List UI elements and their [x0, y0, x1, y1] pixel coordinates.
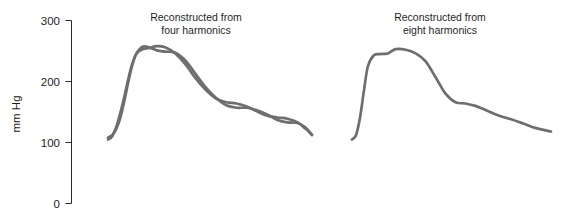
panel-1-title: Reconstructed from four harmonics: [150, 11, 242, 36]
y-tick-label-0: 0: [54, 198, 60, 210]
y-tick-label-100: 100: [41, 137, 60, 149]
panel-2-title-line1: Reconstructed from: [394, 11, 486, 23]
y-axis-title: mm Hg: [10, 95, 22, 132]
waveform-traces: [108, 46, 551, 139]
panel-2-title: Reconstructed from eight harmonics: [394, 11, 486, 36]
figure-container: 300 200 100 0 mm Hg Reconstructed from f…: [0, 0, 562, 224]
y-tick-label-200: 200: [41, 76, 60, 88]
y-axis: 300 200 100 0 mm Hg: [10, 15, 72, 210]
y-tick-label-300: 300: [41, 15, 60, 27]
panel-1-title-line1: Reconstructed from: [150, 11, 242, 23]
chart-canvas: 300 200 100 0 mm Hg Reconstructed from f…: [0, 0, 562, 224]
waveform-trace-p1-s2: [108, 46, 312, 137]
waveform-trace-p2-s1: [352, 49, 551, 140]
panel-1-title-line2: four harmonics: [161, 24, 230, 36]
panel-2-title-line2: eight harmonics: [403, 24, 477, 36]
